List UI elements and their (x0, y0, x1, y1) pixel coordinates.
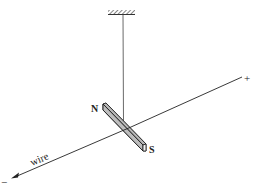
north-pole-label: N (91, 103, 99, 114)
wire-front-segment (16, 127, 131, 177)
wire-arrowhead-icon (11, 173, 19, 179)
south-pole-label: S (149, 144, 155, 155)
bar-magnet (103, 103, 146, 151)
suspension-thread (123, 15, 124, 123)
magnet-end-face (143, 144, 146, 151)
magnet-top-face (103, 103, 146, 145)
negative-terminal-label: − (1, 176, 7, 187)
ceiling-support (108, 10, 135, 15)
magnet-front-face (103, 104, 143, 151)
wire-label: wire (28, 150, 50, 168)
diagram-canvas: N S wire + − (0, 0, 257, 187)
positive-terminal-label: + (244, 72, 250, 84)
wire-back-segment (131, 77, 242, 127)
